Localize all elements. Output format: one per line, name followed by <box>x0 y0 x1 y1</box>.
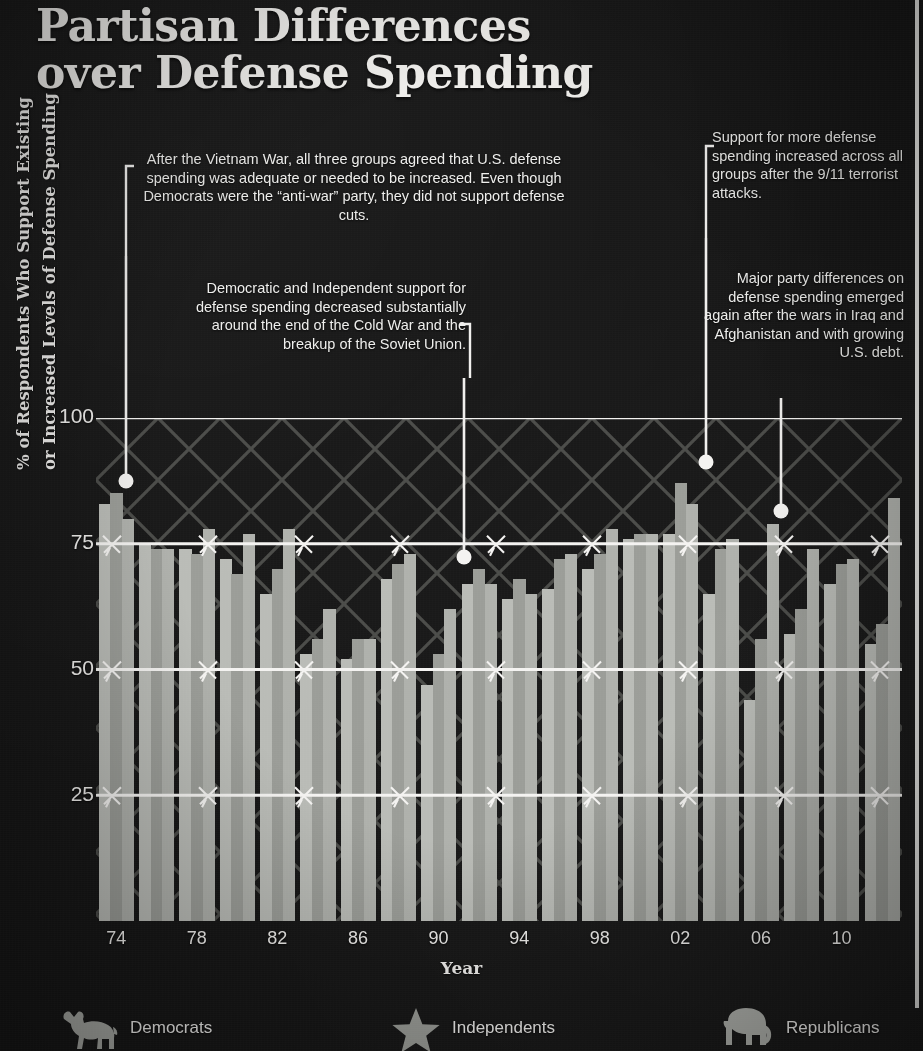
bar-republicans-1996 <box>565 554 577 921</box>
bar-independents-1992 <box>473 569 485 921</box>
bar-democrats-1984 <box>300 654 312 921</box>
bar-independents-1976 <box>151 549 163 921</box>
bar-democrats-2002 <box>663 534 675 921</box>
donkey-icon <box>58 1005 120 1051</box>
bar-independents-1984 <box>312 639 324 921</box>
bar-democrats-1996 <box>542 589 554 921</box>
annotation-cold-war: Democratic and Independent support for d… <box>190 279 466 353</box>
bar-independents-2012 <box>876 624 888 921</box>
annotation-iraq-afghanistan: Major party differences on defense spend… <box>700 269 904 362</box>
y-tick-25: 25 <box>58 782 94 806</box>
bar-independents-1996 <box>554 559 566 921</box>
y-axis-label-line-1: % of Respondents Who Support Existing <box>14 97 33 470</box>
bar-republicans-1984 <box>323 609 335 921</box>
bar-independents-2010 <box>836 564 848 921</box>
bar-republicans-2002 <box>686 504 698 921</box>
y-axis-label-text-1: % of Respondents Who Support Existing <box>14 97 33 470</box>
bar-democrats-1998 <box>582 569 594 921</box>
x-tick-06: 06 <box>751 928 771 949</box>
legend-label-independents: Independents <box>452 1018 555 1038</box>
x-tick-98: 98 <box>590 928 610 949</box>
bar-independents-1998 <box>594 554 606 921</box>
y-axis-label-text-2: or Increased Levels of Defense Spending <box>40 93 59 470</box>
bar-republicans-2008 <box>807 549 819 921</box>
x-tick-82: 82 <box>267 928 287 949</box>
annotation-september-eleven: Support for more defense spending increa… <box>712 128 904 202</box>
title-line-1: Partisan Differences <box>36 2 676 49</box>
legend-item-independents[interactable]: Independents <box>390 1005 555 1051</box>
bar-democrats-1980 <box>220 559 232 921</box>
bar-democrats-2008 <box>784 634 796 921</box>
chart-plot-area <box>96 418 902 921</box>
y-tick-100: 100 <box>58 404 94 428</box>
bar-democrats-1976 <box>139 544 151 921</box>
bar-republicans-2004 <box>726 539 738 921</box>
bar-independents-2004 <box>715 549 727 921</box>
bar-democrats-2012 <box>865 644 877 921</box>
bar-independents-1988 <box>392 564 404 921</box>
x-tick-86: 86 <box>348 928 368 949</box>
x-tick-94: 94 <box>509 928 529 949</box>
bar-republicans-2006 <box>767 524 779 921</box>
x-axis-label: Year <box>0 958 923 978</box>
bar-democrats-1974 <box>99 504 111 921</box>
star-icon <box>390 1005 442 1051</box>
bar-independents-1994 <box>513 579 525 921</box>
bar-republicans-2012 <box>888 498 900 921</box>
bar-democrats-1986 <box>341 659 353 921</box>
bar-independents-2000 <box>634 534 646 921</box>
chart-legend: Democrats Independents Republicans <box>0 1000 923 1051</box>
bar-republicans-1980 <box>243 534 255 921</box>
legend-item-democrats[interactable]: Democrats <box>58 1005 212 1051</box>
bar-republicans-1978 <box>203 529 215 921</box>
bar-independents-1978 <box>191 554 203 921</box>
elephant-icon <box>718 1005 776 1051</box>
bar-democrats-1978 <box>179 549 191 921</box>
title-line-2: over Defense Spending <box>36 49 676 96</box>
bar-democrats-1988 <box>381 579 393 921</box>
page-title: Partisan Differences over Defense Spendi… <box>36 2 676 96</box>
bar-independents-2008 <box>795 609 807 921</box>
bar-republicans-2000 <box>646 534 658 921</box>
bar-democrats-2006 <box>744 700 756 921</box>
bar-series-container <box>96 418 902 921</box>
bar-democrats-2000 <box>623 539 635 921</box>
legend-label-democrats: Democrats <box>130 1018 212 1038</box>
bar-republicans-2010 <box>847 559 859 921</box>
bar-democrats-2004 <box>703 594 715 921</box>
bar-independents-2006 <box>755 639 767 921</box>
bar-democrats-1992 <box>462 584 474 921</box>
x-tick-78: 78 <box>187 928 207 949</box>
right-margin-rule <box>915 0 919 1008</box>
y-tick-50: 50 <box>58 656 94 680</box>
bar-republicans-1986 <box>364 639 376 921</box>
bar-democrats-1990 <box>421 685 433 921</box>
x-tick-74: 74 <box>106 928 126 949</box>
x-tick-02: 02 <box>670 928 690 949</box>
bar-independents-2002 <box>675 483 687 921</box>
bar-independents-1974 <box>110 493 122 921</box>
bar-republicans-1988 <box>404 554 416 921</box>
bar-republicans-1992 <box>485 584 497 921</box>
y-axis-label-line-2: or Increased Levels of Defense Spending <box>40 93 59 470</box>
legend-item-republicans[interactable]: Republicans <box>718 1005 880 1051</box>
bar-republicans-1976 <box>162 549 174 921</box>
bar-republicans-1998 <box>606 529 618 921</box>
bar-independents-1990 <box>433 654 445 921</box>
bar-independents-1980 <box>231 574 243 921</box>
x-tick-10: 10 <box>832 928 852 949</box>
bar-democrats-1982 <box>260 594 272 921</box>
x-tick-90: 90 <box>429 928 449 949</box>
bar-independents-1982 <box>272 569 284 921</box>
bar-republicans-1994 <box>525 594 537 921</box>
legend-label-republicans: Republicans <box>786 1018 880 1038</box>
bar-republicans-1982 <box>283 529 295 921</box>
y-tick-75: 75 <box>58 530 94 554</box>
bar-republicans-1990 <box>444 609 456 921</box>
annotation-vietnam: After the Vietnam War, all three groups … <box>128 150 580 224</box>
bar-democrats-2010 <box>824 584 836 921</box>
bar-independents-1986 <box>352 639 364 921</box>
bar-democrats-1994 <box>502 599 514 921</box>
bar-republicans-1974 <box>122 519 134 921</box>
